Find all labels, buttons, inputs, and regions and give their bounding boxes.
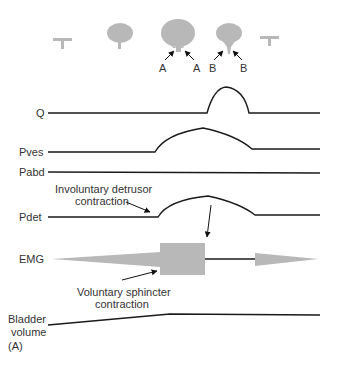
emg-sphincter-block <box>160 243 205 275</box>
annotation-involuntary-line1: Involuntary detrusor <box>55 183 153 195</box>
annotation-involuntary-line2: contraction <box>75 195 129 207</box>
trace-label-bladder-volume-1: Bladder <box>8 313 46 325</box>
bladder-icon-large <box>161 19 195 52</box>
trace-bladder-volume <box>48 314 320 325</box>
bladder-icon-empty-2 <box>260 36 279 46</box>
trace-pves <box>48 128 320 152</box>
label-a-right: A <box>193 62 201 74</box>
label-b-right: B <box>240 62 247 74</box>
trace-pabd <box>48 172 320 173</box>
voluntary-arrow <box>122 271 157 280</box>
bladder-neck-arrows <box>165 51 242 60</box>
bladder-icon-empty-1 <box>53 38 72 49</box>
figure-label: (A) <box>8 340 23 352</box>
trace-label-pabd: Pabd <box>19 166 45 178</box>
trace-label-pdet: Pdet <box>19 211 42 223</box>
emg-rising-wedge <box>52 252 160 267</box>
trace-label-emg: EMG <box>19 253 44 265</box>
involuntary-arrow <box>126 202 150 212</box>
annotation-voluntary-line2: contraction <box>95 298 149 310</box>
annotation-voluntary-line1: Voluntary sphincter <box>77 286 171 298</box>
label-a-left: A <box>159 62 167 74</box>
trace-label-pves: Pves <box>19 146 44 158</box>
bladder-icon-small <box>107 23 133 49</box>
urodynamic-diagram: A A B B Q Pves Pabd Involuntary detrusor… <box>0 0 337 365</box>
emg-falling-wedge <box>255 253 318 266</box>
pdet-peak-arrow <box>207 205 211 237</box>
bladder-icon-medium <box>216 23 242 54</box>
trace-q <box>48 87 320 113</box>
trace-label-bladder-volume-2: volume <box>11 326 46 338</box>
label-b-left: B <box>209 62 216 74</box>
trace-label-q: Q <box>36 107 45 119</box>
trace-emg <box>52 243 318 275</box>
